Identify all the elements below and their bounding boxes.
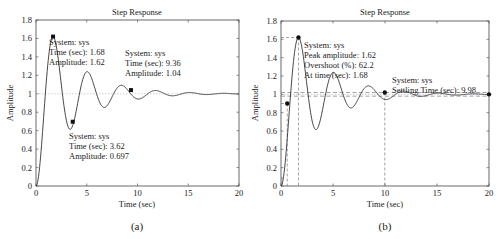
panel-b-ticks: 0510152000.20.40.60.811.21.41.61.8 (266, 16, 493, 198)
panel-a-annotations: System: sysTime (sec): 1.68Amplitude: 1.… (49, 37, 181, 161)
characteristic-marker[interactable] (285, 101, 289, 105)
datatip-marker[interactable] (71, 120, 75, 124)
y-tick-label: 1 (273, 89, 277, 99)
y-tick-label: 0.6 (21, 126, 32, 136)
y-tick-label: 1.4 (21, 52, 32, 62)
y-tick-label: 1.2 (266, 71, 277, 81)
y-tick-label: 1.4 (266, 53, 277, 63)
y-tick-label: 0 (273, 181, 277, 191)
panel-a-caption: (a) (131, 220, 144, 233)
datatip-text: System: sysTime (sec): 1.68Amplitude: 1.… (49, 37, 105, 67)
panel-a-plot: Step Response Time (sec) Amplitude (a) 0… (5, 7, 243, 233)
datatip-marker[interactable] (129, 88, 133, 92)
y-tick-label: 1.6 (21, 33, 32, 43)
x-tick-label: 5 (331, 188, 335, 198)
datatip-text: System: sysTime (sec): 9.36Amplitude: 1.… (125, 48, 181, 78)
y-tick-label: 0.8 (21, 107, 32, 117)
x-tick-label: 10 (381, 188, 390, 198)
characteristic-marker[interactable] (487, 92, 491, 96)
y-tick-label: 1 (28, 89, 32, 99)
panel-b-caption: (b) (379, 220, 392, 233)
y-tick-label: 1.6 (266, 34, 277, 44)
datatip-text: System: sysPeak amplitude: 1.62Overshoot… (304, 40, 376, 80)
panel-a-title: Step Response (112, 7, 162, 17)
panel-a-ylabel: Amplitude (5, 85, 15, 122)
x-tick-label: 0 (279, 188, 283, 198)
panel-b-plot: Step Response Time (sec) Amplitude (b) 0… (250, 7, 493, 233)
y-tick-label: 0.2 (21, 163, 32, 173)
panel-a-xlabel: Time (sec) (119, 199, 155, 209)
x-tick-label: 15 (433, 188, 442, 198)
panel-b-annotations: System: sysPeak amplitude: 1.62Overshoot… (304, 40, 476, 95)
y-tick-label: 1.2 (21, 70, 32, 80)
x-tick-label: 20 (235, 188, 244, 198)
y-tick-label: 0.8 (266, 108, 277, 118)
x-tick-label: 0 (34, 188, 38, 198)
y-tick-label: 1.8 (266, 16, 277, 26)
x-tick-label: 15 (184, 188, 193, 198)
characteristic-marker[interactable] (296, 35, 300, 39)
step-response-figure: Step Response Time (sec) Amplitude (a) 0… (0, 0, 500, 239)
x-tick-label: 20 (485, 188, 494, 198)
panel-b-ylabel: Amplitude (250, 85, 260, 122)
datatip-text: System: sysTime (sec): 3.62Amplitude: 0.… (69, 131, 129, 161)
y-tick-label: 0.6 (266, 126, 277, 136)
characteristic-marker[interactable] (383, 90, 387, 94)
y-tick-label: 0.2 (266, 163, 277, 173)
y-tick-label: 0 (28, 181, 32, 191)
y-tick-label: 1.8 (21, 15, 32, 25)
x-tick-label: 10 (133, 188, 142, 198)
y-tick-label: 0.4 (21, 144, 32, 154)
panel-b-title: Step Response (360, 7, 410, 17)
panel-b-xlabel: Time (sec) (367, 199, 403, 209)
datatip-text: System: sysSettling Time (sec): 9.98 (392, 75, 476, 95)
x-tick-label: 5 (85, 188, 89, 198)
y-tick-label: 0.4 (266, 144, 277, 154)
